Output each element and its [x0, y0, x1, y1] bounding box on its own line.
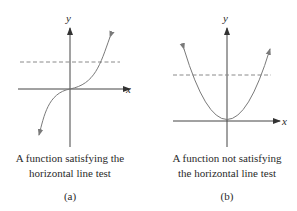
graph-a-x-label: x	[125, 83, 131, 95]
caption-b-line1: A function not satisfying	[157, 151, 297, 166]
caption-b-line2: the horizontal line test	[157, 166, 297, 181]
figure-label-b: (b)	[157, 190, 297, 202]
caption-a-line1: A function satisfying the	[0, 151, 140, 166]
graph-b: y x	[173, 12, 287, 147]
graph-b-y-label: y	[222, 12, 228, 24]
graph-a-y-label: y	[65, 12, 71, 24]
caption-a-line2: horizontal line test	[0, 166, 140, 181]
graph-b-x-label: x	[281, 115, 287, 127]
graph-a: y x	[18, 12, 131, 147]
figure-label-a: (a)	[0, 190, 140, 202]
caption-a: A function satisfying the horizontal lin…	[0, 151, 140, 181]
graph-a-cubic-curve	[39, 37, 110, 135]
caption-b: A function not satisfying the horizontal…	[157, 151, 297, 181]
